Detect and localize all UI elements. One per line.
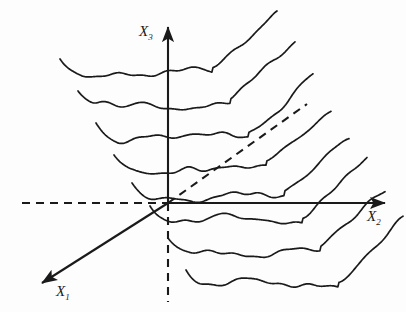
figure-vector-layer xyxy=(0,0,406,312)
axis-label-x3-base: X xyxy=(139,23,148,39)
axis-label-x1-base: X xyxy=(56,283,65,299)
axis-x1-line xyxy=(42,203,168,283)
surface-curve-2 xyxy=(78,42,295,110)
x1-negative-dashed-diagonal xyxy=(168,104,307,203)
axis-label-x1: X1 xyxy=(56,283,70,302)
surface-curve-6 xyxy=(150,158,367,224)
axis-label-x2-subscript: 2 xyxy=(376,217,381,227)
surface-curve-4 xyxy=(114,111,331,174)
curve-sheaf xyxy=(60,11,403,287)
axis-label-x3: X3 xyxy=(139,23,153,42)
surface-curve-3 xyxy=(96,74,313,144)
axes-lines xyxy=(42,27,385,283)
axis-label-x2-base: X xyxy=(367,208,376,224)
axis-label-x3-subscript: 3 xyxy=(148,32,153,42)
axis-label-x2: X2 xyxy=(367,208,381,227)
figure-canvas: X1 X2 X3 xyxy=(0,0,406,312)
axis-label-x1-subscript: 1 xyxy=(65,292,70,302)
surface-curve-5 xyxy=(132,139,349,203)
